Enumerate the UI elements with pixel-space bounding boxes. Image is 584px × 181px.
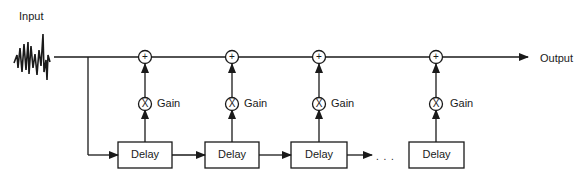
sum-symbol-2: +: [226, 52, 238, 62]
multiply-symbol-3: X: [313, 99, 325, 109]
delay-label-1: Delay: [118, 149, 172, 160]
gain-label-4: Gain: [450, 98, 473, 109]
gain-label-2: Gain: [244, 98, 267, 109]
gain-label-3: Gain: [331, 98, 354, 109]
sum-symbol-1: +: [139, 52, 151, 62]
input-label: Input: [19, 11, 43, 22]
multiply-symbol-1: X: [139, 99, 151, 109]
output-label: Output: [540, 53, 573, 64]
sum-symbol-4: +: [430, 52, 442, 62]
ellipsis: . . .: [376, 152, 395, 162]
delay-label-2: Delay: [205, 149, 259, 160]
multiply-symbol-4: X: [430, 99, 442, 109]
sum-symbol-3: +: [313, 52, 325, 62]
gain-label-1: Gain: [157, 98, 180, 109]
delay-label-3: Delay: [291, 149, 347, 160]
multiply-symbol-2: X: [226, 99, 238, 109]
input-waveform-icon: [14, 34, 50, 80]
delay-label-4: Delay: [409, 149, 464, 160]
